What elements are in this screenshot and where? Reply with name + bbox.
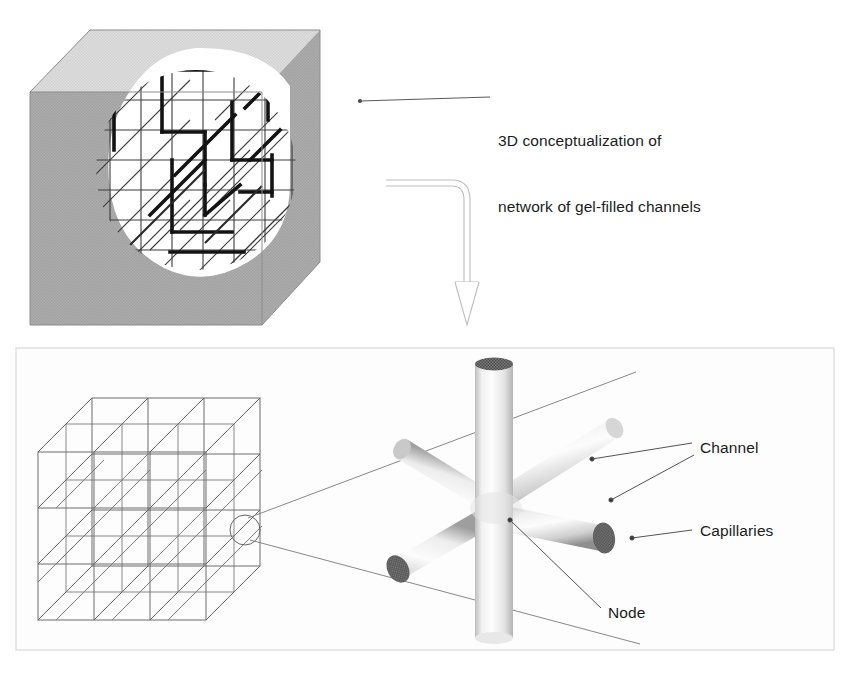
top-annotation-text: 3D conceptualization of network of gel-f… [498, 86, 701, 262]
node-center [470, 492, 522, 524]
curved-down-arrow [386, 180, 479, 325]
cutaway-cube [30, 30, 320, 325]
label-channel: Channel [700, 437, 758, 458]
top-panel-graphics [0, 0, 853, 677]
node-arm-up [475, 358, 513, 513]
node-detail-panel-frame [16, 348, 834, 650]
top-annotation-leader [358, 97, 490, 103]
label-capillaries: Capillaries [700, 520, 773, 541]
label-node: Node [608, 602, 645, 623]
capillary-disc-top [475, 358, 513, 371]
top-annotation-line2: network of gel-filled channels [498, 196, 701, 218]
top-annotation-line1: 3D conceptualization of [498, 130, 701, 152]
figure-root: 3D conceptualization of network of gel-f… [0, 0, 853, 677]
